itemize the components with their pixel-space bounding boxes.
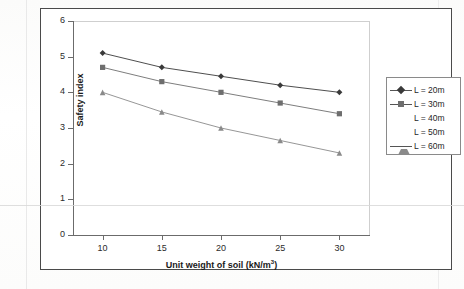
legend-label: L = 30m <box>412 99 445 109</box>
data-point <box>218 90 223 95</box>
series-line <box>103 92 340 153</box>
legend-item: L = 20m <box>390 83 457 97</box>
legend-symbol <box>398 101 404 107</box>
series-l-30m <box>100 65 342 117</box>
chart-screenshot: 0123456 1015202530 Safety index Unit wei… <box>0 0 464 289</box>
legend-marker-triangle-icon <box>390 140 412 152</box>
data-point <box>218 73 224 79</box>
series-line <box>103 53 340 92</box>
legend-label: L = 20m <box>412 85 445 95</box>
legend-marker-square-icon <box>390 98 412 110</box>
legend-item: L = 50m <box>390 125 457 139</box>
legend-marker-diamond-icon <box>390 84 412 96</box>
data-point <box>100 90 106 96</box>
legend-item: L = 30m <box>390 97 457 111</box>
legend-symbol <box>397 86 405 94</box>
series-l-60m <box>100 90 342 156</box>
data-point <box>337 111 342 116</box>
data-point <box>100 50 106 56</box>
scan-edge-left <box>26 0 27 289</box>
legend-symbol <box>398 143 410 155</box>
legend-label: L = 50m <box>412 127 445 137</box>
legend-label: L = 60m <box>412 141 445 151</box>
data-point <box>336 89 342 95</box>
data-point <box>100 65 105 70</box>
legend-label: L = 40m <box>412 113 445 123</box>
data-point <box>159 79 164 84</box>
data-point <box>278 100 283 105</box>
data-point <box>159 64 165 70</box>
data-point <box>159 109 165 115</box>
legend-item: L = 40m <box>390 111 457 125</box>
data-point <box>277 82 283 88</box>
chart-frame: 0123456 1015202530 Safety index Unit wei… <box>40 8 452 270</box>
scan-artifact-line <box>0 205 464 206</box>
legend-box: L = 20mL = 30mL = 40mL = 50mL = 60m <box>386 77 461 155</box>
series-l-20m <box>100 50 343 95</box>
legend-item: L = 60m <box>390 139 457 153</box>
